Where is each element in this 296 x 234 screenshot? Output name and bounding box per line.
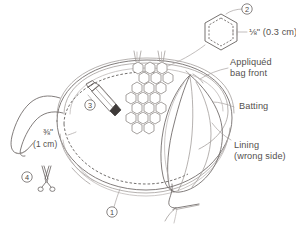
lining-folded-back [161, 71, 222, 192]
hexagon-measurement-label: ⅛" (0.3 cm) [249, 27, 296, 38]
diagram-canvas: .s { fill:none; stroke:#6b6664; stroke-w… [0, 0, 296, 234]
callout-number-2: 2 [243, 6, 251, 13]
appliqued-bag-front-label-line1: Appliquéd [230, 57, 272, 68]
seam-measurement-label-line1: ⅜" [43, 127, 53, 137]
batting-label: Batting [239, 101, 268, 112]
callout-number-3: 3 [86, 102, 94, 109]
appliqued-bag-front-label-line2: bag front [230, 68, 267, 79]
lining-label-line2: (wrong side) [234, 151, 286, 162]
callout-number-1: 1 [108, 209, 116, 216]
lining-label-line1: Lining [234, 140, 259, 151]
callout-number-4: 4 [23, 174, 31, 181]
dashed-stitch-line [64, 72, 188, 184]
marking-pencil-icon [86, 81, 121, 116]
hexagon-template-icon [205, 14, 247, 50]
scissors-icon [38, 166, 55, 191]
seam-measurement-label-line2: (1 cm) [33, 139, 57, 149]
